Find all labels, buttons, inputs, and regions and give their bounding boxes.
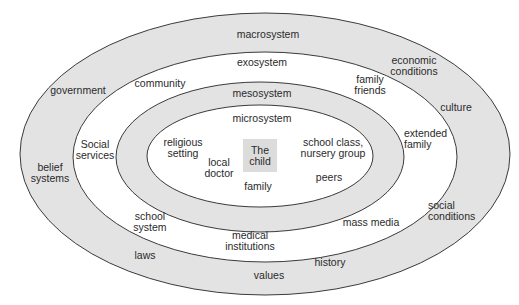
history-label: history xyxy=(315,257,346,268)
government-label: government xyxy=(50,85,105,96)
peers-label: peers xyxy=(316,172,342,183)
community-label: community xyxy=(135,78,186,89)
belief-systems-label: belief systems xyxy=(31,162,70,184)
exosystem-label: exosystem xyxy=(237,57,287,68)
laws-label: laws xyxy=(134,250,155,261)
the-child-label: The child xyxy=(249,145,271,167)
extended-family-label: extended family xyxy=(404,128,447,150)
mass-media-label: mass media xyxy=(343,217,400,228)
culture-label: culture xyxy=(440,102,472,113)
values-label: values xyxy=(254,270,284,281)
local-doctor-label: local doctor xyxy=(204,157,233,179)
school-class-label: school class, nursery group xyxy=(301,137,366,159)
family-label: family xyxy=(244,181,271,192)
family-friends-label: family friends xyxy=(354,74,386,96)
school-system-label: school system xyxy=(133,211,166,233)
mesosystem-label: mesosystem xyxy=(233,88,292,99)
economic-conditions-label: economic conditions xyxy=(390,55,437,77)
microsystem-label: microsystem xyxy=(233,113,292,124)
macrosystem-label: macrosystem xyxy=(237,29,299,40)
religious-setting-label: religious setting xyxy=(163,137,202,159)
social-conditions-label: social conditions xyxy=(428,200,475,222)
social-services-label: Social services xyxy=(76,139,115,161)
medical-institutions-label: medical institutions xyxy=(225,230,275,252)
